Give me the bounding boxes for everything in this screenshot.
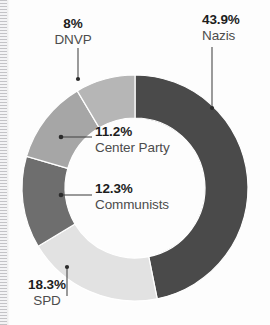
slice-value-dnvp: 8% [36, 16, 110, 32]
slice-label-center-party: 11.2% Center Party [95, 124, 170, 156]
slice-name-communists: Communists [95, 197, 169, 213]
slice-value-spd: 18.3% [12, 277, 82, 293]
slice-value-center-party: 11.2% [95, 124, 170, 140]
slice-value-communists: 12.3% [95, 181, 169, 197]
donut-chart: 8% DNVP 43.9% Nazis 11.2% Center Party 1… [0, 0, 270, 325]
slice-name-dnvp: DNVP [36, 32, 110, 48]
slice-name-center-party: Center Party [95, 140, 170, 156]
leader-line-nazis [210, 47, 214, 110]
leader-line-dnvp [76, 48, 80, 81]
slice-label-dnvp: 8% DNVP [36, 16, 110, 48]
slice-label-communists: 12.3% Communists [95, 181, 169, 213]
slice-name-spd: SPD [12, 293, 82, 309]
slice-name-nazis: Nazis [202, 28, 270, 44]
slice-value-nazis: 43.9% [202, 12, 270, 28]
slice-label-spd: 18.3% SPD [12, 277, 82, 309]
chart-page: 8% DNVP 43.9% Nazis 11.2% Center Party 1… [0, 0, 270, 325]
slice-label-nazis: 43.9% Nazis [202, 12, 270, 44]
